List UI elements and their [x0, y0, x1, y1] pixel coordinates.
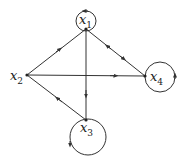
arrow-x1-x4-icon	[120, 56, 124, 59]
node-label-x3: x3	[80, 121, 93, 138]
node-dot-x2	[25, 73, 28, 76]
edge-x3-x2	[27, 75, 86, 120]
edge-x1-x4	[86, 29, 145, 76]
node-label-x1: x1	[79, 13, 92, 30]
node-label-x2: x2	[10, 69, 23, 86]
node-dot-x4	[143, 74, 146, 77]
arrow-x4-x1-icon	[107, 46, 111, 49]
arrow-x3-x2-icon	[57, 98, 62, 102]
node-label-x4: x4	[150, 70, 163, 87]
arrow-x2-x1-icon	[56, 49, 60, 52]
graph-diagram: x1 x2 x3 x4	[0, 0, 185, 164]
